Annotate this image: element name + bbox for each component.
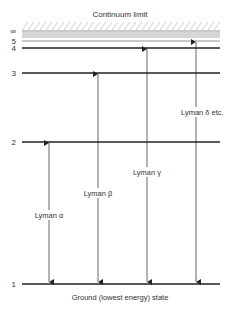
- hatch-stroke: [154, 22, 160, 30]
- hatch-stroke: [202, 22, 208, 30]
- hatch-stroke: [28, 22, 34, 30]
- hatch-stroke: [70, 22, 76, 30]
- hatch-stroke: [172, 22, 178, 30]
- hatch-stroke: [136, 22, 142, 30]
- hatch-stroke: [100, 22, 106, 30]
- ground-state-label: Ground (lowest energy) state: [72, 293, 169, 302]
- energy-level-diagram: Continuum limit ∞54321 Lyman αLyman βLym…: [0, 0, 238, 313]
- hatch-stroke: [40, 22, 46, 30]
- hatch-stroke: [196, 22, 202, 30]
- hatch-stroke: [142, 22, 148, 30]
- hatch-stroke: [82, 22, 88, 30]
- hatch-stroke: [64, 22, 70, 30]
- hatch-stroke: [46, 22, 52, 30]
- level-label: 1: [12, 280, 17, 289]
- hatch-stroke: [178, 22, 184, 30]
- hatch-stroke: [58, 22, 64, 30]
- hatch-stroke: [160, 22, 166, 30]
- transition-label: Lyman α: [35, 211, 64, 220]
- hatch-stroke: [130, 22, 136, 30]
- transition-arrows: Lyman αLyman βLyman γLyman δ etc.: [33, 42, 230, 282]
- continuum-hatching: [22, 22, 220, 30]
- energy-levels: ∞54321: [10, 27, 220, 289]
- level-label: 4: [12, 44, 17, 53]
- hatch-stroke: [208, 22, 214, 30]
- level-label: ∞: [10, 27, 16, 36]
- level-label: 3: [12, 69, 17, 78]
- hatch-stroke: [76, 22, 82, 30]
- hatch-stroke: [88, 22, 94, 30]
- hatch-stroke: [94, 22, 100, 30]
- continuum-limit-title: Continuum limit: [92, 10, 148, 19]
- hatch-stroke: [118, 22, 124, 30]
- hatch-stroke: [106, 22, 112, 30]
- hatch-stroke: [124, 22, 130, 30]
- transition-label: Lyman β: [84, 189, 113, 198]
- hatch-stroke: [22, 22, 28, 30]
- hatch-stroke: [214, 22, 220, 30]
- hatch-stroke: [112, 22, 118, 30]
- hatch-stroke: [34, 22, 40, 30]
- hatch-stroke: [184, 22, 190, 30]
- transition-label: Lyman γ: [133, 168, 161, 177]
- transition-label: Lyman δ etc.: [181, 108, 224, 117]
- hatch-stroke: [52, 22, 58, 30]
- level-label: 2: [12, 138, 17, 147]
- hatch-stroke: [148, 22, 154, 30]
- hatch-stroke: [166, 22, 172, 30]
- hatch-stroke: [190, 22, 196, 30]
